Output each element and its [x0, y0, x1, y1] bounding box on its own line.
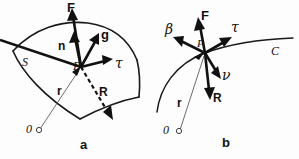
- panel-b-label-R: R: [213, 92, 222, 104]
- figure-container: F n g τ R r P S 0 a F β τ ν R r P C 0 b: [0, 0, 299, 159]
- panel-a-label-g: g: [101, 28, 109, 41]
- panel-b-origin-dot: [176, 128, 181, 133]
- panel-a-label-F: F: [67, 1, 75, 14]
- panel-b-label-nu: ν: [222, 68, 231, 82]
- panel-b-label-tau: τ: [231, 20, 239, 34]
- figure-drawing: [0, 0, 299, 159]
- panel-a-label-P: P: [73, 60, 80, 72]
- panel-a-label-origin: 0: [26, 123, 32, 135]
- panel-a-label-R: R: [99, 86, 108, 98]
- panel-b-label-P: P: [197, 38, 204, 49]
- panel-a-label-S: S: [22, 56, 28, 68]
- panel-b-label-C: C: [271, 45, 279, 57]
- surface-right-edge: [137, 60, 140, 97]
- panel-a-vector-R: [81, 67, 113, 120]
- panel-b-caption: b: [222, 136, 230, 149]
- panel-a-caption: a: [80, 138, 87, 151]
- panel-b-label-r: r: [177, 97, 182, 109]
- panel-a-label-r: r: [57, 85, 62, 97]
- panel-a-vector-r: [36, 66, 81, 133]
- panel-a-label-n: n: [58, 40, 65, 52]
- panel-a-label-tau: τ: [115, 56, 123, 70]
- panel-b-vector-r: [176, 51, 205, 134]
- panel-b-label-F: F: [201, 9, 209, 22]
- panel-b-label-beta: β: [165, 22, 173, 36]
- panel-a-origin-dot: [36, 127, 41, 132]
- panel-b-label-origin: 0: [163, 124, 169, 136]
- panel-b-vector-tau: [205, 37, 232, 53]
